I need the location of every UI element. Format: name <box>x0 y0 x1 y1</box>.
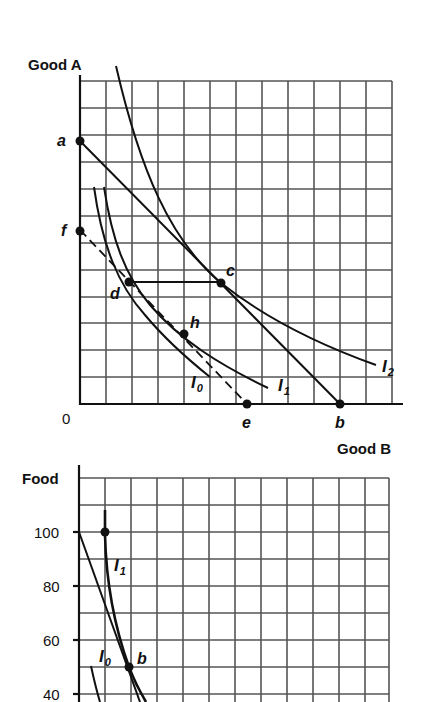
label-c: c <box>226 262 235 279</box>
bottom-indifference-curve-i1 <box>105 510 146 702</box>
point-f <box>76 227 85 236</box>
tick-label-60: 60 <box>43 632 60 649</box>
point-b-bottom <box>125 663 134 672</box>
label-h: h <box>190 314 200 331</box>
point-a <box>76 137 85 146</box>
top-grid <box>80 81 392 404</box>
origin-label: 0 <box>62 410 70 427</box>
x-axis-title: Good B <box>337 440 391 457</box>
point-food-100 <box>101 528 110 537</box>
label-i0: I0 <box>191 373 204 394</box>
y-axis-title: Good A <box>28 56 82 73</box>
point-b <box>336 400 345 409</box>
bottom-chart: Food 100 80 60 40 b I1 I0 <box>22 465 389 702</box>
top-chart: Good A Good B 0 a f d c h e b I0 I1 I2 <box>28 56 403 457</box>
diagram-canvas: Good A Good B 0 a f d c h e b I0 I1 I2 <box>0 0 427 702</box>
label-f: f <box>61 222 68 239</box>
budget-line-fe-dashed <box>80 230 247 404</box>
point-c <box>217 279 226 288</box>
point-d <box>125 278 134 287</box>
tick-label-40: 40 <box>43 686 60 702</box>
label-a: a <box>57 132 66 149</box>
tick-label-100: 100 <box>34 524 59 541</box>
point-h <box>180 330 189 339</box>
food-axis-title: Food <box>22 470 59 487</box>
label-d: d <box>110 285 121 302</box>
label-b: b <box>335 414 345 431</box>
tick-label-80: 80 <box>43 578 60 595</box>
label-e: e <box>242 414 251 431</box>
bottom-indifference-curve-i0 <box>91 666 100 702</box>
point-e <box>243 400 252 409</box>
label-b-bottom: b <box>137 650 147 667</box>
